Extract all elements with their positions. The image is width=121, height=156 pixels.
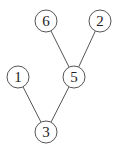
node-1: 1 <box>7 66 29 88</box>
node-label: 5 <box>70 69 78 85</box>
node-5: 5 <box>63 66 85 88</box>
node-6: 6 <box>35 10 57 32</box>
node-label: 3 <box>42 124 50 140</box>
tree-diagram: 6 2 1 5 3 <box>0 0 121 156</box>
node-label: 6 <box>42 13 50 29</box>
node-2: 2 <box>89 10 111 32</box>
node-label: 2 <box>96 13 104 29</box>
node-label: 1 <box>14 69 22 85</box>
node-3: 3 <box>35 121 57 143</box>
